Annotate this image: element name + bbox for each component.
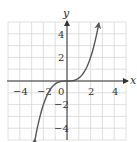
y-tick-neg2: −2 — [54, 99, 69, 110]
y-tick-4: 4 — [58, 29, 64, 40]
y-tick-2: 2 — [58, 52, 64, 63]
x-axis-label: x — [130, 74, 137, 87]
y-tick-neg4: −4 — [54, 123, 69, 134]
cubic-function-graph: x y −4 −2 0 2 4 4 2 −2 −4 — [0, 0, 137, 142]
y-axis-label: y — [62, 7, 70, 20]
x-tick-4: 4 — [112, 86, 118, 97]
x-tick-0: 0 — [58, 86, 64, 97]
x-tick-neg4: −4 — [13, 86, 28, 97]
x-tick-2: 2 — [88, 86, 94, 97]
